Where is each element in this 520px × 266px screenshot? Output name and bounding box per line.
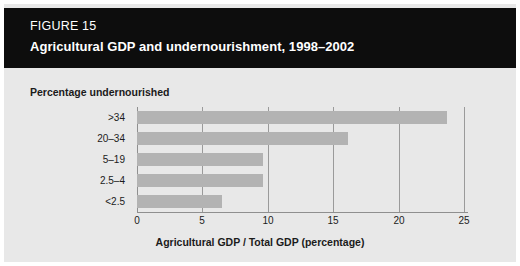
y-tick-label-3: 2.5–4 [9, 170, 133, 191]
chart-body: Percentage undernourished >34 20–34 5–19… [4, 68, 516, 262]
x-tick-label-1: 5 [199, 215, 205, 226]
bar-20-34 [137, 132, 348, 145]
bar-row [137, 191, 464, 212]
x-axis-title: Agricultural GDP / Total GDP (percentage… [4, 236, 516, 248]
x-tick-label-2: 10 [262, 215, 273, 226]
bar-2p5-4 [137, 174, 263, 187]
y-tick-label-2: 5–19 [9, 149, 133, 170]
x-tick-label-3: 15 [327, 215, 338, 226]
figure-header: FIGURE 15 Agricultural GDP and undernour… [4, 8, 516, 68]
x-axis-baseline [137, 212, 468, 213]
x-tick-label-0: 0 [134, 215, 140, 226]
plot-area [137, 107, 464, 212]
y-tick-label-1: 20–34 [9, 128, 133, 149]
bar-row [137, 128, 464, 149]
y-tick-label-4: <2.5 [9, 191, 133, 212]
figure-number: FIGURE 15 [30, 19, 96, 33]
figure-title: Agricultural GDP and undernourishment, 1… [30, 39, 354, 54]
y-tick-label-0: >34 [9, 107, 133, 128]
y-axis-title: Percentage undernourished [30, 86, 169, 98]
figure-panel: FIGURE 15 Agricultural GDP and undernour… [4, 4, 516, 262]
bar-row [137, 149, 464, 170]
bar-5-19 [137, 153, 263, 166]
bar-row [137, 170, 464, 191]
x-axis-tick-labels: 0 5 10 15 20 25 [137, 215, 464, 229]
x-tick-label-4: 20 [393, 215, 404, 226]
gridline-25 [464, 107, 465, 212]
bar-row [137, 107, 464, 128]
bar-lt2p5 [137, 195, 222, 208]
y-axis-category-labels: >34 20–34 5–19 2.5–4 <2.5 [9, 107, 133, 212]
bar-gt34 [137, 111, 447, 124]
x-tick-label-5: 25 [458, 215, 469, 226]
